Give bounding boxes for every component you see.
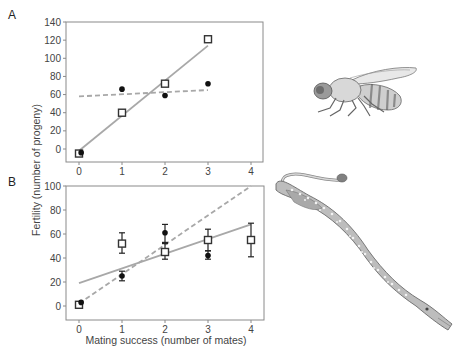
circle-data-point	[78, 300, 84, 306]
y-axis-label: Fertility (number of progeny)	[30, 104, 42, 236]
y-tick-label: 0	[55, 144, 61, 155]
x-tick-label: 1	[119, 166, 125, 177]
plot-frame	[66, 22, 263, 162]
dashed-fit-line	[79, 90, 208, 96]
x-tick-label: 4	[248, 166, 254, 177]
pipefish-illustration	[276, 174, 452, 330]
panel-label-a: A	[8, 8, 16, 22]
y-tick-label: 20	[50, 277, 62, 288]
y-tick-label: 60	[50, 229, 62, 240]
x-tick-label: 3	[205, 166, 211, 177]
square-data-point	[205, 36, 212, 43]
y-tick-label: 40	[50, 253, 62, 264]
x-tick-label: 4	[248, 324, 254, 335]
chart-panel-a: 02040608010012014001234	[44, 17, 263, 178]
y-tick-label: 60	[50, 89, 62, 100]
x-tick-label: 0	[76, 324, 82, 335]
circle-data-point	[162, 93, 168, 99]
square-data-point	[119, 109, 126, 116]
circle-data-point	[205, 253, 211, 259]
y-tick-label: 100	[44, 53, 61, 64]
x-axis-label: Mating success (number of mates)	[85, 334, 246, 346]
square-data-point	[119, 240, 126, 247]
y-tick-label: 80	[50, 205, 62, 216]
fruit-fly-illustration	[314, 68, 416, 117]
y-tick-label: 20	[50, 125, 62, 136]
y-tick-label: 140	[44, 17, 61, 28]
panel-label-b: B	[8, 175, 16, 189]
y-tick-label: 40	[50, 107, 62, 118]
y-tick-label: 80	[50, 71, 62, 82]
figure: A B Fertility (number of progeny) 020406…	[0, 0, 461, 354]
square-data-point	[162, 249, 169, 256]
circle-data-point	[205, 81, 211, 87]
square-data-point	[162, 80, 169, 87]
x-tick-label: 2	[162, 166, 168, 177]
y-tick-label: 100	[44, 181, 61, 192]
y-tick-label: 120	[44, 35, 61, 46]
y-tick-label: 0	[55, 301, 61, 312]
x-tick-label: 0	[76, 166, 82, 177]
circle-data-point	[78, 150, 84, 156]
square-data-point	[205, 237, 212, 244]
circle-data-point	[119, 86, 125, 92]
square-data-point	[248, 237, 255, 244]
chart-panel-b: 02040608010001234	[44, 181, 264, 336]
solid-fit-line	[79, 46, 208, 151]
circle-data-point	[119, 273, 125, 279]
circle-data-point	[162, 230, 168, 236]
